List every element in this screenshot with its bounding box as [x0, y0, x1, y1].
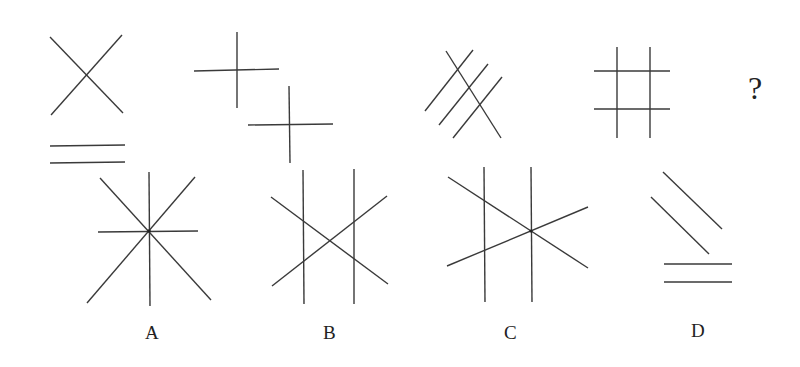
figure-3	[425, 50, 502, 138]
option-a-figure[interactable]	[87, 172, 211, 306]
option-d-figure[interactable]	[651, 172, 732, 282]
option-a-label[interactable]: A	[145, 322, 159, 343]
figure-4	[594, 47, 670, 138]
option-b-figure[interactable]	[271, 169, 388, 304]
option-c-label[interactable]: C	[504, 322, 517, 343]
option-b-label[interactable]: B	[323, 322, 336, 343]
puzzle-canvas: ? A B C D	[0, 0, 800, 367]
figure-1	[50, 35, 125, 163]
figure-2	[194, 32, 333, 163]
question-mark: ?	[748, 70, 762, 106]
option-c-figure[interactable]	[447, 167, 588, 302]
option-d-label[interactable]: D	[691, 320, 705, 341]
